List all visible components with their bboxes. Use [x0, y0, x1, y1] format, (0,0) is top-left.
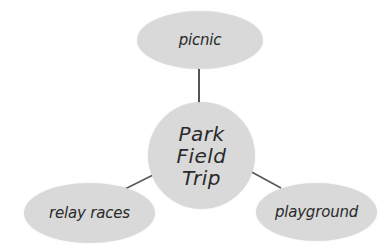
- node-label-center: Park Field Trip: [176, 123, 226, 189]
- node-playground: playground: [256, 183, 377, 241]
- node-center-park-field-trip: Park Field Trip: [148, 102, 255, 209]
- node-label-picnic: picnic: [179, 31, 222, 49]
- node-relay-races: relay races: [24, 183, 155, 243]
- node-picnic: picnic: [137, 11, 263, 69]
- node-label-relay-races: relay races: [49, 204, 130, 222]
- node-label-playground: playground: [275, 203, 358, 221]
- connector-center-relay-races: [123, 174, 155, 190]
- mind-map-diagram: picnic Park Field Trip relay races playg…: [0, 0, 392, 250]
- connector-center-playground: [248, 170, 281, 188]
